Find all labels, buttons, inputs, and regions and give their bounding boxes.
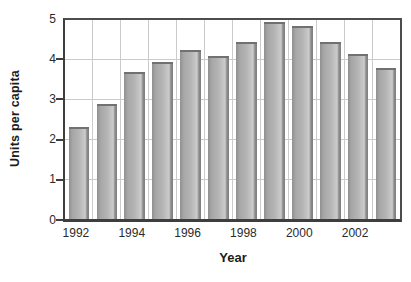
bar-1992 bbox=[69, 127, 90, 219]
y-tick-label: 2 bbox=[30, 132, 56, 147]
y-tick-mark bbox=[56, 139, 64, 141]
bar-1994 bbox=[124, 72, 145, 219]
y-tick-mark bbox=[56, 179, 64, 181]
x-tick-label: 1998 bbox=[213, 226, 273, 240]
bar-2003 bbox=[376, 68, 397, 219]
bar-1999 bbox=[264, 22, 285, 219]
x-tick-label: 1994 bbox=[102, 226, 162, 240]
y-tick-label: 1 bbox=[30, 172, 56, 187]
bar-1996 bbox=[180, 50, 201, 219]
x-axis-title: Year bbox=[192, 250, 274, 266]
y-tick-label: 4 bbox=[30, 52, 56, 67]
v-gridline bbox=[148, 20, 149, 219]
v-gridline bbox=[316, 20, 317, 219]
v-gridline bbox=[372, 20, 373, 219]
v-gridline bbox=[204, 20, 205, 219]
v-gridline bbox=[260, 20, 261, 219]
x-tick-label: 1996 bbox=[158, 226, 218, 240]
v-gridline bbox=[288, 20, 289, 219]
v-gridline bbox=[344, 20, 345, 219]
bar-2001 bbox=[320, 42, 341, 219]
bar-2002 bbox=[348, 54, 369, 219]
y-tick-mark bbox=[56, 219, 64, 221]
plot-area bbox=[63, 18, 402, 222]
bar-1998 bbox=[236, 42, 257, 219]
x-tick-label: 2000 bbox=[269, 226, 329, 240]
bar-chart-figure: Units per capita 012345 1992199419961998… bbox=[0, 0, 411, 282]
x-tick-label: 1992 bbox=[46, 226, 106, 240]
bar-1995 bbox=[152, 62, 173, 219]
bar-1993 bbox=[97, 104, 118, 219]
v-gridline bbox=[92, 20, 93, 219]
x-tick-label: 2002 bbox=[325, 226, 385, 240]
v-gridline bbox=[232, 20, 233, 219]
v-gridline bbox=[176, 20, 177, 219]
y-axis-title: Units per capita bbox=[8, 48, 25, 190]
bar-2000 bbox=[292, 26, 313, 219]
y-tick-label: 5 bbox=[30, 12, 56, 27]
y-tick-mark bbox=[56, 98, 64, 100]
v-gridline bbox=[120, 20, 121, 219]
y-tick-mark bbox=[56, 58, 64, 60]
y-tick-label: 3 bbox=[30, 92, 56, 107]
bar-1997 bbox=[208, 56, 229, 219]
